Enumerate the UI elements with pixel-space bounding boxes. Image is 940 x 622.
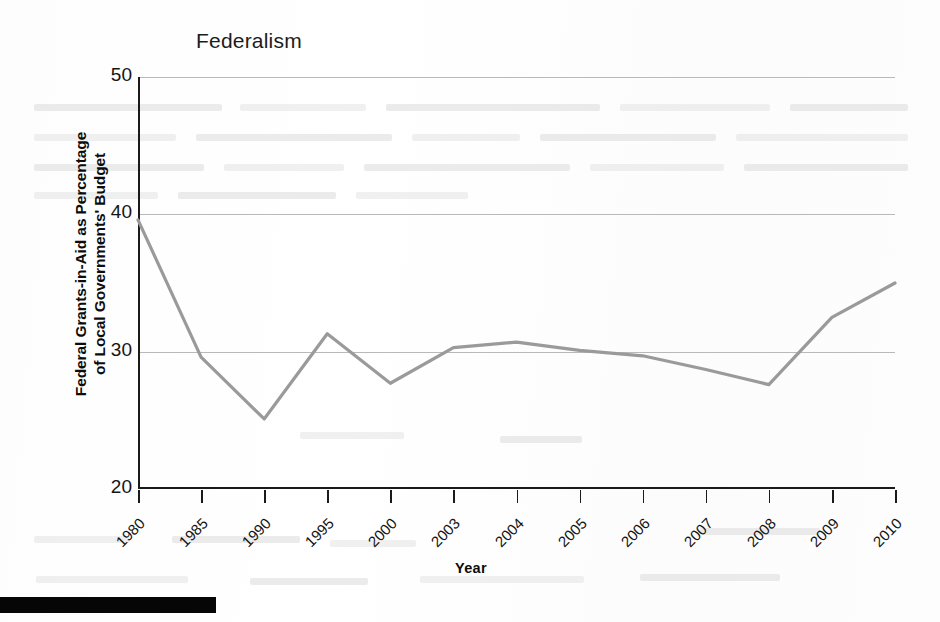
- x-tick-label-1995: 1995: [293, 514, 338, 559]
- x-tick-label-2010: 2010: [860, 514, 905, 559]
- x-tick-label-2003: 2003: [419, 514, 464, 559]
- x-tick-label-1985: 1985: [167, 514, 212, 559]
- x-tick-label-2004: 2004: [482, 514, 527, 559]
- page-rule-bar: [0, 597, 216, 613]
- x-tick-label-2007: 2007: [671, 514, 716, 559]
- x-axis-tick-labels: 1980198519901995200020032004200520062007…: [0, 0, 940, 622]
- x-axis-title: Year: [455, 560, 487, 576]
- x-tick-label-2008: 2008: [734, 514, 779, 559]
- x-tick-label-2005: 2005: [545, 514, 590, 559]
- x-tick-label-1980: 1980: [103, 514, 148, 559]
- x-tick-label-2009: 2009: [797, 514, 842, 559]
- x-tick-label-2000: 2000: [356, 514, 401, 559]
- x-tick-label-1990: 1990: [230, 514, 275, 559]
- chart-figure: Federalism Federal Grants-in-Aid as Perc…: [0, 0, 940, 622]
- x-tick-label-2006: 2006: [608, 514, 653, 559]
